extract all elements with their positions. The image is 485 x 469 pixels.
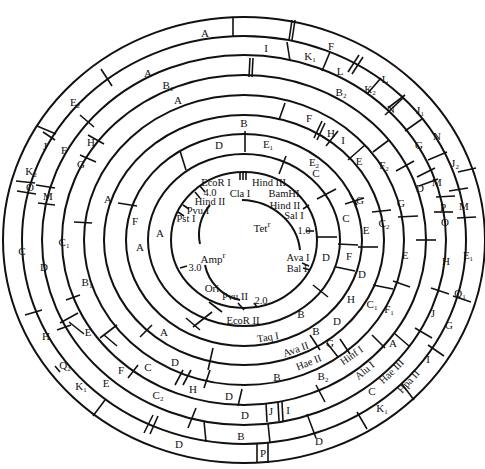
site-label: Sal I <box>284 211 304 222</box>
fragment-label: C <box>312 168 319 179</box>
fragment-label: C1 <box>367 299 378 312</box>
fragment-label: C2 <box>153 390 164 403</box>
fragment-label: F <box>346 251 352 262</box>
fragment-label: A <box>160 327 168 338</box>
ring-circle <box>84 95 404 385</box>
fragment-label: H <box>327 128 335 139</box>
restriction-map-figure: Ampr Tetr Ori 1.0 2.0 3.0 4.0 EcoR I Hin… <box>0 0 485 469</box>
site-label: Bal I <box>287 264 308 275</box>
fragment-label: A <box>174 95 182 106</box>
fragment-label: D <box>40 262 48 273</box>
fragment-label: D <box>241 410 249 421</box>
fragment-label: D <box>225 391 233 402</box>
fragment-label: G <box>445 320 453 331</box>
fragment-label: I <box>341 135 345 146</box>
fragment-label: M <box>459 201 469 212</box>
fragment-label: F <box>328 41 334 52</box>
amp-resistance-label: Ampr <box>200 251 225 265</box>
scale-mark: 1.0 <box>297 226 310 237</box>
ring-circle <box>104 115 384 365</box>
fragment-label: C <box>368 386 375 397</box>
fragment-label: B <box>237 431 244 442</box>
fragment-label: N <box>387 104 395 115</box>
fragment-label: B1 <box>82 277 93 290</box>
fragment-label: A <box>156 228 164 239</box>
ring-circle <box>3 17 485 463</box>
fragment-label: E <box>85 327 92 338</box>
origin-label: Ori <box>205 283 220 294</box>
fragment-label: O <box>441 217 449 228</box>
fragment-label: F <box>306 113 312 124</box>
fragment-label: I <box>426 354 430 365</box>
site-label: Cla I <box>230 189 251 200</box>
fragment-label: D <box>175 439 183 450</box>
fragment-label: H <box>347 294 355 305</box>
fragment-label: C1 <box>59 237 70 250</box>
fragment-label: N <box>433 131 441 142</box>
fragment-label: A <box>201 28 209 39</box>
scale-mark: 3.0 <box>188 263 201 274</box>
fragment-label: G <box>326 338 334 349</box>
fragment-label: H <box>189 384 197 395</box>
fragment-label: B2 <box>336 87 347 100</box>
fragment-label: D <box>333 316 341 327</box>
fragment-label: P <box>260 448 266 459</box>
fragment-label: J2 <box>451 158 459 171</box>
fragment-label: M <box>432 177 442 188</box>
fragment-label: K2 <box>25 166 36 179</box>
fragment-label: E <box>103 378 110 389</box>
site-label: Hind III <box>252 178 286 189</box>
fragment-label: E1 <box>263 139 273 152</box>
fragment-label: C2 <box>379 218 390 231</box>
fragment-label: D <box>215 140 223 151</box>
fragment-label: B1 <box>163 80 174 93</box>
fragment-label: I <box>286 405 290 416</box>
scale-mark: 2.0 <box>254 296 267 307</box>
site-label: Pst I <box>177 214 196 225</box>
fragment-label: A <box>389 338 397 349</box>
fragment-label: E1 <box>463 250 473 263</box>
enzyme-ring-label: EcoR II <box>227 316 260 327</box>
fragment-label: I <box>264 43 268 54</box>
site-label: Ava I <box>287 253 310 264</box>
fragment-label: H <box>42 331 50 342</box>
fragment-label: P <box>440 202 446 213</box>
fragment-label: A <box>144 68 152 79</box>
fragment-label: A <box>104 194 112 205</box>
fragment-label: H <box>442 256 450 267</box>
fragment-label: G <box>356 195 364 206</box>
site-label: Pvu II <box>222 292 248 303</box>
fragment-label: E <box>356 156 363 167</box>
fragment-label: G <box>397 198 405 209</box>
fragment-label: E <box>402 250 409 261</box>
fragment-label: J <box>431 308 435 319</box>
fragment-label: B <box>297 309 304 320</box>
fragment-label: D <box>416 183 424 194</box>
fragment-label: A <box>136 242 144 253</box>
fragment-label: F1 <box>384 304 394 317</box>
fragment-label: F2 <box>379 160 389 173</box>
fragment-label: L <box>382 74 389 85</box>
fragment-label: O <box>26 182 34 193</box>
fragment-label: B <box>273 372 280 383</box>
fragment-label: Q2 <box>59 360 70 373</box>
tet-resistance-label: Tetr <box>254 220 271 234</box>
fragment-label: F <box>118 365 124 376</box>
fragment-label: D <box>315 436 323 447</box>
fragment-label: J1 <box>416 105 424 118</box>
fragment-label: G <box>415 140 423 151</box>
site-label: BamHI <box>269 189 300 200</box>
ring-diagram <box>0 0 485 469</box>
fragment-label: J <box>269 406 273 417</box>
fragment-label: L <box>337 66 344 77</box>
site-label: EcoR I <box>201 178 230 189</box>
fragment-label: Q1 <box>454 288 465 301</box>
fragment-label: H <box>87 137 95 148</box>
fragment-label: D <box>358 269 366 280</box>
fragment-label: K1 <box>75 381 86 394</box>
fragment-label: E <box>363 225 370 236</box>
fragment-label: B <box>312 326 319 337</box>
fragment-label: B2 <box>318 371 329 384</box>
fragment-label: K2 <box>364 84 375 97</box>
fragment-label: J <box>43 141 47 152</box>
